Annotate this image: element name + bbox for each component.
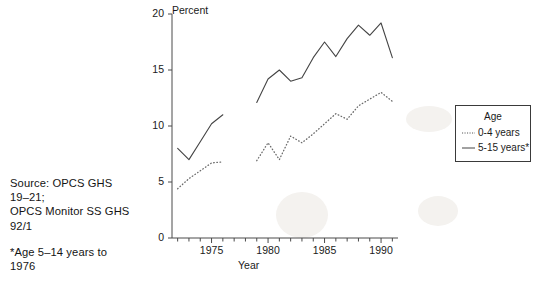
footnote-line-1: *Age 5–14 years to — [10, 246, 107, 258]
x-axis-title: Year — [238, 259, 259, 271]
legend-item-5-15-years[interactable]: 5-15 years* — [462, 141, 524, 154]
solid-line-icon — [462, 143, 475, 152]
source-note: Source: OPCS GHS 19–21; OPCS Monitor SS … — [10, 176, 150, 233]
source-notes: Source: OPCS GHS 19–21; OPCS Monitor SS … — [10, 176, 150, 273]
dotted-line-icon — [462, 128, 475, 137]
y-tick-label: 10 — [142, 119, 164, 131]
footnote-line-2: 1976 — [10, 260, 35, 272]
chart-legend: Age 0-4 years 5-15 years* — [455, 105, 531, 162]
source-note-line-3: OPCS Monitor SS GHS — [10, 205, 129, 217]
x-tick-label: 1980 — [250, 244, 286, 256]
source-note-line-2: 19–21; — [10, 191, 45, 203]
scan-artifact — [406, 106, 452, 132]
source-note-line-1: Source: OPCS GHS — [10, 177, 112, 189]
scan-artifact — [418, 196, 458, 226]
footnote: *Age 5–14 years to 1976 — [10, 245, 150, 273]
figure-page: Source: OPCS GHS 19–21; OPCS Monitor SS … — [0, 0, 542, 283]
legend-label-0: 0-4 years — [478, 126, 520, 139]
x-tick-label: 1990 — [363, 244, 399, 256]
x-tick-label: 1985 — [307, 244, 343, 256]
y-tick-label: 0 — [142, 231, 164, 243]
legend-title: Age — [462, 111, 524, 122]
y-tick-label: 20 — [142, 7, 164, 19]
line-chart — [150, 4, 400, 254]
source-note-line-4: 92/1 — [10, 220, 32, 232]
x-tick-label: 1975 — [194, 244, 230, 256]
legend-label-1: 5-15 years* — [478, 141, 529, 154]
y-tick-label: 5 — [142, 175, 164, 187]
legend-item-0-4-years[interactable]: 0-4 years — [462, 126, 524, 139]
chart-plot-area: Percent Year 051015201975198019851990 — [150, 4, 400, 279]
y-tick-label: 15 — [142, 63, 164, 75]
